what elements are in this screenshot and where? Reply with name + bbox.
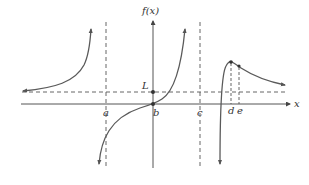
- y-axis-label: f(x): [141, 5, 159, 16]
- label-L: L: [141, 80, 149, 91]
- tick-label-e: e: [237, 105, 243, 116]
- point-L: [151, 90, 155, 94]
- point-b: [151, 102, 155, 106]
- tick-label-a: a: [103, 107, 109, 118]
- tick-label-b: b: [153, 107, 159, 118]
- function-graph: f(x) x L a b c d e: [0, 0, 309, 185]
- curve-middle-branch: [99, 29, 185, 164]
- point-e: [237, 64, 240, 67]
- curve-left-branch: [23, 29, 91, 91]
- x-axis-label: x: [294, 98, 300, 109]
- tick-label-d: d: [228, 105, 234, 116]
- tick-label-c: c: [197, 107, 203, 118]
- point-d-peak: [229, 60, 233, 64]
